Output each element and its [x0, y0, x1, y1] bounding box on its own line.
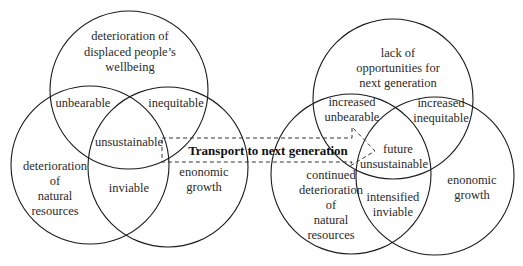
left-natural-label-line2: of	[50, 174, 61, 188]
left-economic-label-line1: enonomic	[179, 165, 229, 179]
left-intersection-inviable: inviable	[109, 181, 150, 195]
left-economic-label-line2: growth	[186, 180, 222, 194]
left-intersection-unsustainable: unsustainable	[95, 135, 163, 149]
right-intersection-intensified-inviable-line2: inviable	[373, 205, 414, 219]
right-natural-label-line2: deterioration	[299, 183, 364, 197]
left-natural-label-line3: natural	[38, 189, 73, 203]
right-natural-label-line3: of	[326, 198, 337, 212]
right-economic-label-line2: growth	[454, 188, 490, 202]
right-opportunities-label-line1: lack of	[381, 46, 416, 60]
right-intersection-intensified-inviable-line1: intensified	[367, 190, 421, 204]
transport-label: Transport to next generation	[188, 143, 348, 158]
right-intersection-increased-inequitable-line1: increased	[417, 96, 465, 110]
right-natural-label-line1: continued	[306, 168, 356, 182]
left-wellbeing-label-line2: displaced people’s	[84, 45, 176, 59]
right-intersection-increased-inequitable-line2: inequitable	[413, 111, 469, 125]
right-natural-label-line4: natural	[314, 213, 349, 227]
left-intersection-inequitable: inequitable	[148, 96, 204, 110]
left-wellbeing-label-line1: deterioration of	[91, 29, 169, 43]
right-natural-label-line5: resources	[307, 228, 354, 242]
left-natural-label-line4: resources	[31, 204, 78, 218]
right-intersection-future-line2: unsustainable	[360, 157, 428, 171]
left-wellbeing-label-line3: wellbeing	[105, 60, 155, 74]
right-intersection-future-line1: future	[383, 142, 413, 156]
right-economic-label-line1: enonomic	[447, 173, 497, 187]
right-opportunities-label-line3: next generation	[359, 76, 437, 90]
venn-diagram-canvas: deterioration of displaced people’s well…	[0, 0, 523, 266]
left-natural-label-line1: deterioration	[23, 159, 88, 173]
right-opportunities-label-line2: opportunities for	[356, 61, 441, 75]
right-intersection-increased-unbearable-line2: unbearable	[325, 110, 380, 124]
right-intersection-increased-unbearable-line1: increased	[328, 95, 376, 109]
left-intersection-unbearable: unbearable	[56, 96, 111, 110]
